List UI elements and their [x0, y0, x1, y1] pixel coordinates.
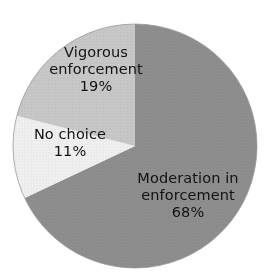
pie-label-vigorous-line1: Vigorous — [36, 44, 156, 61]
pie-label-no-choice-line1: No choice — [10, 126, 130, 143]
pie-label-vigorous-line2: enforcement — [36, 61, 156, 78]
pie-chart: Vigorous enforcement 19% No choice 11% M… — [0, 0, 273, 279]
pie-value-vigorous: 19% — [36, 78, 156, 95]
pie-label-moderation-line1: Moderation in — [118, 170, 258, 187]
pie-label-no-choice: No choice 11% — [10, 126, 130, 160]
pie-label-moderation-line2: enforcement — [118, 187, 258, 204]
pie-label-vigorous: Vigorous enforcement 19% — [36, 44, 156, 95]
pie-value-no-choice: 11% — [10, 143, 130, 160]
pie-label-moderation: Moderation in enforcement 68% — [118, 170, 258, 221]
pie-value-moderation: 68% — [118, 204, 258, 221]
